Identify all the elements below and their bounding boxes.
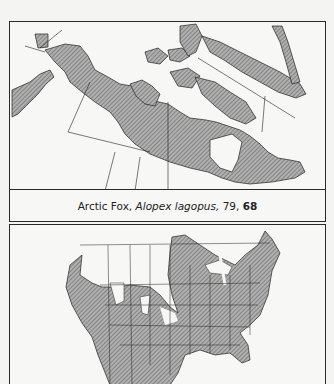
caption-page-ref: 79, — [223, 200, 240, 212]
caption-plate-ref: 68 — [243, 200, 258, 212]
map-caption: Arctic Fox, Alopex lagopus, 79, 68 — [9, 189, 326, 222]
arctic-fox-range-map — [9, 21, 326, 190]
caption-common-name: Arctic Fox, — [78, 200, 133, 212]
range-map-north — [10, 22, 326, 190]
caption-scientific-name: Alopex lagopus, — [136, 200, 220, 212]
us-range-map — [9, 224, 326, 384]
range-map-south — [10, 225, 326, 384]
